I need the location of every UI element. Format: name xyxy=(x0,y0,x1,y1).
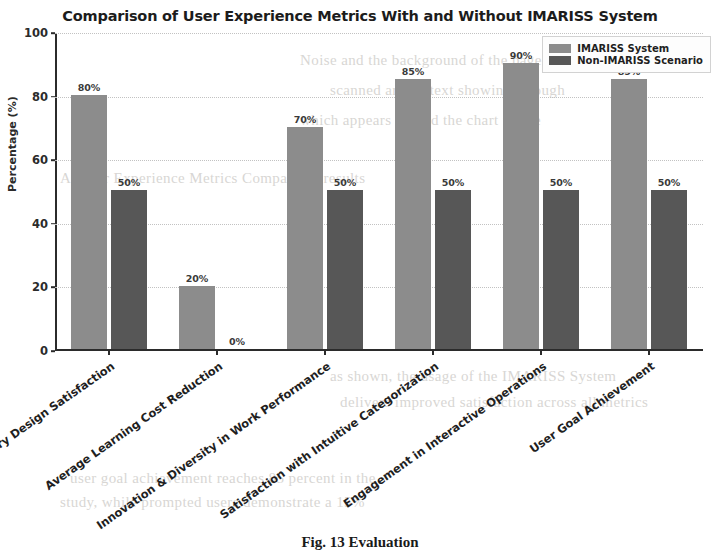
bar-value-label: 0% xyxy=(229,336,245,347)
y-tick-mark xyxy=(51,350,55,352)
bar: 50% xyxy=(111,190,147,349)
y-tick-mark xyxy=(51,159,55,161)
bar-value-label: 85% xyxy=(402,66,425,77)
chart-title: Comparison of User Experience Metrics Wi… xyxy=(0,8,720,24)
bar-value-label: 50% xyxy=(334,177,357,188)
legend-entry-series-1: Non-IMARISS Scenario xyxy=(549,55,703,66)
bar-value-label: 50% xyxy=(442,177,465,188)
figure-caption: Fig. 13 Evaluation xyxy=(0,534,720,557)
chart-legend: IMARISS System Non-IMARISS Scenario xyxy=(542,36,711,73)
x-tick-mark xyxy=(648,351,650,355)
bar: 70% xyxy=(287,127,323,350)
x-tick-mark xyxy=(540,351,542,355)
bar-value-label: 50% xyxy=(118,177,141,188)
y-tick-label: 100 xyxy=(24,26,48,40)
y-tick-label: 0 xyxy=(40,344,48,358)
bar: 20% xyxy=(179,286,215,350)
y-tick-label: 20 xyxy=(32,280,48,294)
gridline xyxy=(55,224,703,226)
gridline xyxy=(55,160,703,162)
y-tick-mark xyxy=(51,32,55,34)
y-axis-title: Percentage (%) xyxy=(6,96,19,192)
bar-value-label: 20% xyxy=(186,273,209,284)
bar: 50% xyxy=(327,190,363,349)
gridline xyxy=(55,33,703,35)
x-tick-mark xyxy=(324,351,326,355)
bar-value-label: 50% xyxy=(550,177,573,188)
y-tick-mark xyxy=(51,287,55,289)
gridline xyxy=(55,287,703,289)
legend-label-imariss-system: IMARISS System xyxy=(577,43,669,54)
x-axis-line xyxy=(55,349,703,351)
x-category-label: Innovation & Diversity in Work Performan… xyxy=(0,359,333,557)
legend-entry-series-0: IMARISS System xyxy=(549,43,703,54)
x-tick-mark xyxy=(108,351,110,355)
bar: 85% xyxy=(395,79,431,349)
legend-swatch-non-imariss-scenario xyxy=(549,56,571,65)
y-tick-label: 60 xyxy=(32,153,48,167)
bar: 50% xyxy=(651,190,687,349)
bar-value-label: 70% xyxy=(294,114,317,125)
legend-label-non-imariss-scenario: Non-IMARISS Scenario xyxy=(577,55,703,66)
bar: 50% xyxy=(543,190,579,349)
bar: 80% xyxy=(71,95,107,349)
bar-value-label: 80% xyxy=(78,82,101,93)
y-tick-mark xyxy=(51,96,55,98)
bar: 90% xyxy=(503,63,539,349)
y-axis-line xyxy=(55,33,57,351)
x-tick-mark xyxy=(432,351,434,355)
bar-chart-figure: Comparison of User Experience Metrics Wi… xyxy=(0,0,720,557)
bar: 85% xyxy=(611,79,647,349)
y-tick-label: 40 xyxy=(32,217,48,231)
y-tick-label: 80 xyxy=(32,90,48,104)
bar-value-label: 90% xyxy=(510,50,533,61)
x-tick-mark xyxy=(216,351,218,355)
gridline xyxy=(55,97,703,99)
bar-value-label: 50% xyxy=(658,177,681,188)
y-tick-mark xyxy=(51,223,55,225)
legend-swatch-imariss-system xyxy=(549,44,571,53)
plot-area: 02040608010080%50%Participatory Design S… xyxy=(55,33,703,351)
bar: 50% xyxy=(435,190,471,349)
